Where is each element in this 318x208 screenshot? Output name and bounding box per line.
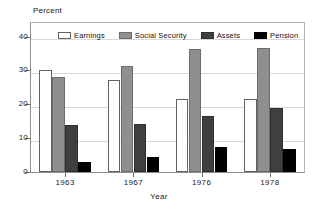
y-tick-label: 40 bbox=[10, 32, 28, 41]
legend-label: Assets bbox=[217, 31, 240, 40]
bar-earnings-1978 bbox=[244, 99, 257, 172]
bar-pension-1976 bbox=[215, 147, 228, 172]
bar-assets-1963 bbox=[65, 125, 78, 172]
bar-social-security-1967 bbox=[121, 66, 134, 172]
bar-chart-figure: Percent 010203040 1963196719761978 Year … bbox=[0, 0, 318, 208]
legend-swatch-icon bbox=[58, 32, 71, 39]
legend-label: Pension bbox=[270, 31, 298, 40]
legend-swatch-icon bbox=[254, 32, 267, 39]
legend-item-social-security: Social Security bbox=[119, 31, 187, 40]
y-tick-label: 30 bbox=[10, 65, 28, 74]
y-tick-label: 10 bbox=[10, 133, 28, 142]
bars-layer bbox=[31, 23, 304, 172]
legend-item-assets: Assets bbox=[201, 31, 240, 40]
bar-social-security-1978 bbox=[257, 48, 270, 172]
x-axis-title: Year bbox=[0, 192, 318, 201]
bar-earnings-1967 bbox=[108, 80, 121, 172]
x-tick-label: 1963 bbox=[43, 178, 87, 187]
chart-legend: EarningsSocial SecurityAssetsPension bbox=[58, 31, 298, 40]
y-axis-title: Percent bbox=[33, 6, 62, 15]
bar-social-security-1976 bbox=[189, 49, 202, 172]
y-tick-label: 0 bbox=[10, 167, 28, 176]
bar-assets-1978 bbox=[270, 108, 283, 172]
x-tick-label: 1978 bbox=[248, 178, 292, 187]
bar-assets-1976 bbox=[202, 116, 215, 172]
x-tick-label: 1967 bbox=[111, 178, 155, 187]
bar-pension-1967 bbox=[147, 157, 160, 172]
bar-social-security-1963 bbox=[52, 77, 65, 172]
bar-pension-1978 bbox=[283, 149, 296, 172]
legend-item-earnings: Earnings bbox=[58, 31, 105, 40]
x-tick-mark bbox=[202, 173, 203, 177]
x-tick-label: 1976 bbox=[180, 178, 224, 187]
legend-label: Social Security bbox=[135, 31, 187, 40]
bar-earnings-1976 bbox=[176, 99, 189, 172]
legend-swatch-icon bbox=[119, 32, 132, 39]
bar-assets-1967 bbox=[134, 124, 147, 172]
legend-label: Earnings bbox=[74, 31, 105, 40]
legend-swatch-icon bbox=[201, 32, 214, 39]
legend-item-pension: Pension bbox=[254, 31, 298, 40]
bar-earnings-1963 bbox=[39, 70, 52, 172]
x-tick-mark bbox=[270, 173, 271, 177]
x-tick-mark bbox=[65, 173, 66, 177]
y-tick-label: 20 bbox=[10, 99, 28, 108]
bar-pension-1963 bbox=[78, 162, 91, 172]
x-tick-mark bbox=[133, 173, 134, 177]
